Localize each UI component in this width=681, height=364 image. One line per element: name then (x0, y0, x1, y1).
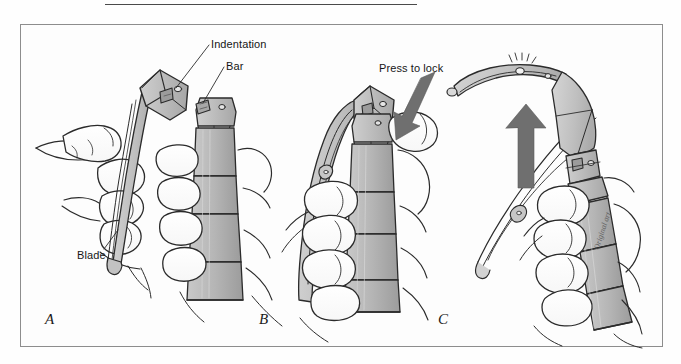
label-bar: Bar (226, 60, 243, 72)
laryngoscope-illustration (0, 0, 681, 364)
panel-c-blade-upper (447, 53, 566, 96)
panel-letter-c: C (438, 311, 448, 328)
label-indentation: Indentation (211, 38, 267, 50)
panel-c-blade-heel (552, 72, 600, 184)
panel-c-artwork (447, 53, 642, 348)
label-press-to-lock: Press to lock (379, 62, 443, 74)
figure-page: Indentation Bar Blade Press to lock A B … (0, 0, 681, 364)
open-blade-arrow (506, 104, 546, 188)
label-blade: Blade (77, 249, 106, 261)
panel-b-artwork (282, 72, 438, 342)
panel-letter-a: A (45, 311, 54, 328)
panel-a-artwork (36, 45, 282, 326)
panel-letter-b: B (259, 311, 268, 328)
